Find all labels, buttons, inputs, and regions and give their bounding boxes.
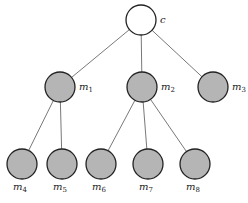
node-circle	[133, 149, 163, 179]
node-label: m4	[13, 181, 27, 194]
edge-m2-m6	[108, 100, 135, 151]
node-circle	[198, 72, 228, 102]
edge-m2-m8	[151, 99, 187, 151]
edge-m2-m7	[143, 102, 147, 149]
node-label: m6	[92, 181, 106, 194]
node-label: m3	[232, 81, 246, 94]
node-m3: m3	[198, 72, 246, 102]
node-label: m8	[186, 181, 200, 194]
node-label: m2	[161, 81, 175, 94]
edge-c-m3	[152, 30, 202, 77]
node-label: m5	[53, 181, 67, 194]
node-circle	[86, 149, 116, 179]
edge-m1-m4	[29, 100, 54, 150]
node-circle	[127, 72, 157, 102]
nodes: cm1m2m3m4m5m6m7m8	[7, 5, 246, 194]
node-circle	[47, 149, 77, 179]
node-circle	[45, 72, 75, 102]
node-m8: m8	[180, 149, 210, 194]
edge-m1-m5	[60, 102, 61, 149]
tree-diagram: cm1m2m3m4m5m6m7m8	[0, 0, 248, 203]
node-circle	[7, 149, 37, 179]
node-label: c	[160, 14, 166, 25]
node-label: m7	[139, 181, 153, 194]
node-circle	[126, 5, 156, 35]
node-label: m1	[79, 81, 93, 94]
node-m2: m2	[127, 72, 175, 102]
node-m6: m6	[86, 149, 116, 194]
node-m4: m4	[7, 149, 37, 194]
node-c: c	[126, 5, 166, 35]
node-m7: m7	[133, 149, 163, 194]
edge-c-m2	[141, 35, 142, 72]
node-m1: m1	[45, 72, 93, 102]
edge-c-m1	[72, 30, 130, 78]
node-m5: m5	[47, 149, 77, 194]
node-circle	[180, 149, 210, 179]
